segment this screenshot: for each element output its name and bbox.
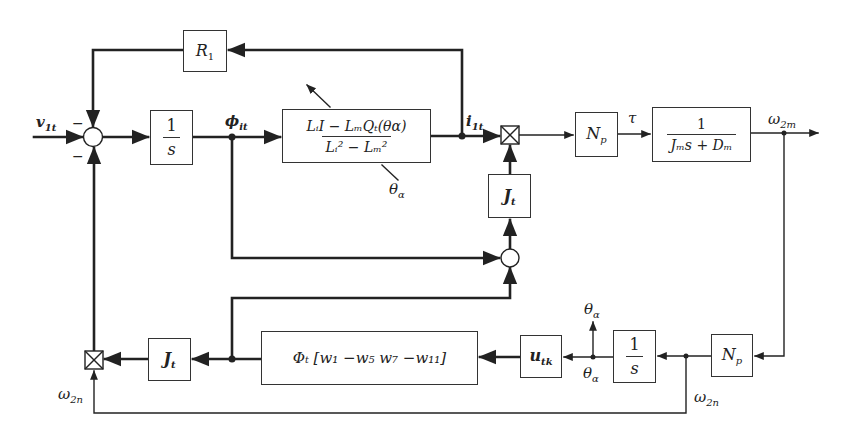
- block-integrator-bottom: 1s: [613, 330, 656, 383]
- block-inductance: LᵢI − LₘQₜ(θα)Lᵢ² − Lₘ²: [282, 109, 431, 163]
- block-utk: utk: [520, 335, 562, 378]
- label-theta-alpha-param: θα: [389, 182, 405, 200]
- label-omega2n-left: ω2n: [58, 387, 83, 405]
- block-phi-weights: Φₜ [w₁ −w₅ w₇ −w₁₁]: [261, 331, 478, 385]
- sign-minus-bottom: −: [72, 148, 84, 164]
- sum-junction-main: [84, 128, 103, 147]
- label-omega2n-right: ω2n: [694, 390, 719, 408]
- sign-minus-top: −: [72, 115, 84, 131]
- multiplier-bottom: [85, 351, 103, 369]
- block-Np-bottom: Np: [711, 334, 753, 377]
- block-plant: 1Jₘs + Dₘ: [652, 107, 751, 162]
- multiplier-top: [501, 126, 519, 144]
- label-tau: τ: [628, 111, 636, 126]
- label-theta-alpha-out: θα: [584, 302, 600, 320]
- label-omega2m: ω2m: [768, 112, 796, 130]
- label-theta-alpha-node: θα: [583, 366, 599, 384]
- block-R1: R1: [183, 30, 227, 72]
- block-integrator-top: 1s: [150, 110, 193, 165]
- block-Jt-bottom: Jt: [148, 338, 191, 381]
- junction-dots: [229, 131, 787, 363]
- label-i1t: i1t: [466, 114, 483, 132]
- label-phi-it: ϕit: [225, 114, 248, 132]
- sum-junction-jt: [501, 249, 519, 267]
- block-Np-top: Np: [575, 112, 618, 157]
- block-Jt-right: Jt: [488, 174, 531, 218]
- label-v1t: v1t: [36, 115, 56, 133]
